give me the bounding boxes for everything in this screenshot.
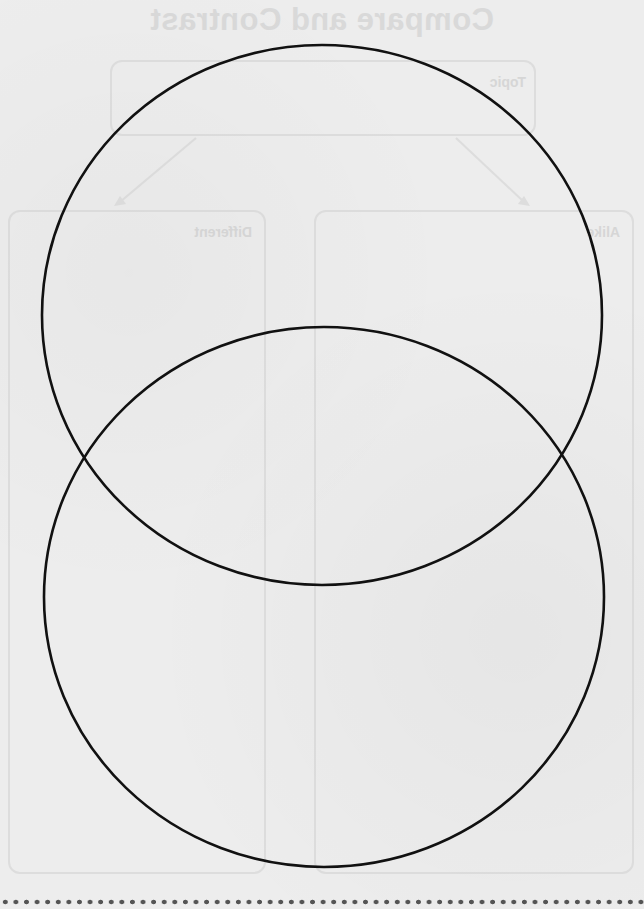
venn-bottom-circle xyxy=(44,327,604,867)
dotted-cut-line xyxy=(0,899,644,905)
venn-diagram xyxy=(0,0,644,909)
worksheet-paper: Compare and Contrast Topic Alike Differe… xyxy=(0,0,644,909)
venn-top-circle xyxy=(42,45,602,585)
